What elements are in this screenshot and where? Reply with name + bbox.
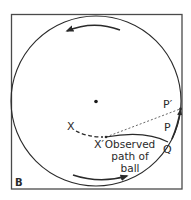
label-q: Q <box>163 143 172 156</box>
panel-label: B <box>15 177 23 188</box>
caption-line-3: ball <box>121 162 140 174</box>
dashed-path-x-to-xprime <box>76 131 103 137</box>
pprime-point <box>179 108 182 111</box>
caption-line-1: Observed <box>105 138 156 150</box>
caption-line-2: path of <box>111 150 149 162</box>
rotating-disc-diagram: X X′ P′ P Q Observed path of ball B <box>0 0 191 200</box>
label-x-prime: X′ <box>94 138 105 151</box>
label-x: X <box>67 120 75 133</box>
rotation-arrow-top-icon <box>67 25 120 31</box>
center-dot <box>94 100 98 104</box>
label-p-prime: P′ <box>163 98 173 111</box>
rotation-arrow-bottom-icon <box>73 175 127 180</box>
rim-segment-p-to-pprime <box>172 110 181 139</box>
label-p: P <box>164 121 171 134</box>
